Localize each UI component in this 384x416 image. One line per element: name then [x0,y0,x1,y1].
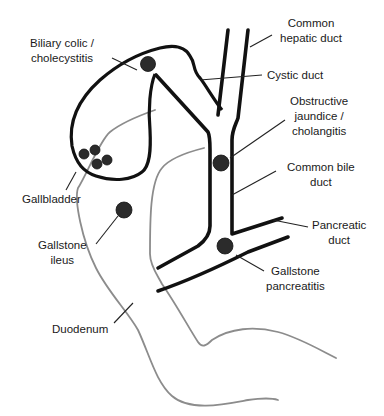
stone-gallbladder-neck [141,57,156,72]
label-common-bile-duct: Common bile duct [287,160,355,190]
label-pancreatic-duct: Pancreatic duct [312,218,366,248]
stone-gallbladder-4 [102,155,112,165]
label-gallbladder: Gallbladder [22,192,81,207]
stone-gallbladder-2 [90,145,100,155]
stone-ileus [116,202,132,218]
stone-gallbladder-1 [79,149,89,159]
stone-gallbladder-3 [92,159,102,169]
label-gallstone-pancreatitis: Gallstone pancreatitis [266,264,325,294]
label-biliary-colic: Biliary colic / cholecystitis [30,36,94,66]
duodenum-outline [77,110,336,406]
label-cystic-duct: Cystic duct [267,68,323,83]
label-obstructive-jaundice: Obstructive jaundice / cholangitis [290,94,348,139]
label-common-hepatic-duct: Common hepatic duct [280,16,342,46]
stone-common-bile-duct [213,155,229,171]
stone-ampulla [217,238,233,254]
label-gallstone-ileus: Gallstone ileus [38,238,87,268]
label-duodenum: Duodenum [52,322,108,337]
